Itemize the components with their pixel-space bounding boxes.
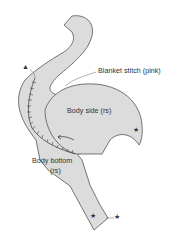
body-bottom-label-rs: (rs) [50,167,61,175]
body-side-label: Body side (rs) [67,107,111,115]
star-marker-icon: ★ [133,126,139,134]
star-marker-icon: ★ [114,213,120,221]
body-bottom-label: Body bottom [32,157,72,165]
body-side-piece [45,84,142,154]
star-marker-icon: ★ [90,212,96,220]
triangle-marker-icon: ▲ [22,63,29,71]
blanket-stitch-label: Blanket stitch (pink) [98,67,161,75]
pattern-diagram [0,0,179,248]
